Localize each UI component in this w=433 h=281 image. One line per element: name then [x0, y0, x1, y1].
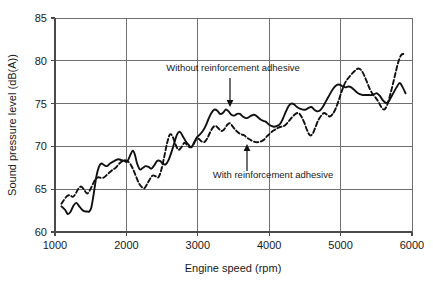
x-tick-label-5000: 5000: [328, 239, 352, 251]
x-axis-title: Engine speed (rpm): [185, 262, 282, 274]
y-tick-label-70: 70: [35, 140, 47, 152]
x-tick-label-6000: 6000: [400, 239, 424, 251]
y-tick-label-65: 65: [35, 183, 47, 195]
sound-pressure-line-chart: 606570758085 100020003000400050006000 Wi…: [0, 0, 433, 281]
y-tick-label-75: 75: [35, 98, 47, 110]
x-tick-label-3000: 3000: [186, 239, 210, 251]
x-tick-label-4000: 4000: [257, 239, 281, 251]
x-tick-labels: 100020003000400050006000: [43, 239, 424, 251]
y-tick-labels: 606570758085: [35, 12, 47, 238]
y-tick-label-80: 80: [35, 55, 47, 67]
plot-background: [55, 18, 412, 232]
chart-figure: 606570758085 100020003000400050006000 Wi…: [0, 0, 433, 281]
annotation-label-with-reinforcement-adhesive: With reinforcement adhesive: [213, 169, 333, 180]
y-axis-title: Sound pressure level (dB(A)): [6, 54, 18, 196]
y-tick-label-60: 60: [35, 226, 47, 238]
x-tick-label-2000: 2000: [114, 239, 138, 251]
y-tick-label-85: 85: [35, 12, 47, 24]
x-tick-label-1000: 1000: [43, 239, 67, 251]
annotation-label-without-reinforcement-adhesive: Without reinforcement adhesive: [166, 62, 300, 73]
